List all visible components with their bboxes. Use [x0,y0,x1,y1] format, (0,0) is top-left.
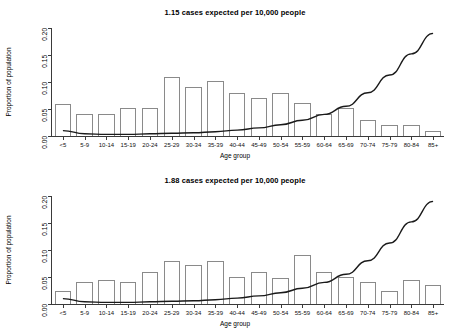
x-axis-tick [433,136,434,140]
x-axis-tick-label: 30-34 [186,142,201,148]
x-axis-tick [433,304,434,308]
x-axis-tick-label: 5-9 [80,310,89,316]
y-tick-label-wrap: 0.20 [44,28,45,29]
x-axis-tick-label: 5-9 [80,142,89,148]
x-axis-tick-label: 45-49 [251,142,266,148]
x-axis-tick-label: 50-54 [273,310,288,316]
x-axis-tick [324,304,325,308]
y-tick-label-wrap: 0.10 [44,82,45,83]
x-axis-tick [215,136,216,140]
x-axis-tick-label: <5 [59,310,66,316]
y-axis-tick-label: 0.05 [42,277,49,290]
risk-curve [52,28,444,136]
y-axis-tick-label: 0.10 [42,82,49,95]
x-axis-tick-label: 45-49 [251,310,266,316]
y-axis-tick-label: 0.15 [42,55,49,68]
x-axis-tick [106,304,107,308]
x-axis-tick-label: 65-69 [338,142,353,148]
chart-panel-1: 1.15 cases expected per 10,000 people Pr… [0,0,470,168]
x-axis-tick [85,304,86,308]
y-axis-tick-label: 0.20 [42,28,49,41]
x-axis-tick-label: 80-84 [404,142,419,148]
x-axis-tick-label: 10-14 [99,142,114,148]
y-axis-tick-label: 0.15 [42,223,49,236]
plot-area-2 [52,196,444,304]
y-axis-tick-label: 0.00 [42,136,49,149]
x-axis-tick [346,136,347,140]
x-axis-tick-label: 35-39 [208,310,223,316]
x-axis-tick [281,304,282,308]
x-axis-tick-label: 15-19 [121,142,136,148]
x-axis-tick [346,304,347,308]
x-axis-tick [281,136,282,140]
x-axis-tick [302,136,303,140]
x-axis-tick [85,136,86,140]
x-axis-tick [237,136,238,140]
x-axis-line [52,304,444,305]
x-axis-tick [215,304,216,308]
x-axis-tick-label: 70-74 [360,310,375,316]
chart-panel-2: 1.88 cases expected per 10,000 people Pr… [0,168,470,336]
x-axis-label: Age group [0,320,470,327]
chart-title: 1.15 cases expected per 10,000 people [0,8,470,17]
y-tick-label-wrap: 0.15 [44,55,45,56]
x-axis-tick [128,136,129,140]
x-axis-tick [411,136,412,140]
x-axis-tick-label: 10-14 [99,310,114,316]
x-axis-tick [302,304,303,308]
x-axis-tick-label: 20-24 [142,310,157,316]
y-axis-tick-label: 0.20 [42,196,49,209]
x-axis-tick-label: 30-34 [186,310,201,316]
x-axis-tick-label: 60-64 [317,142,332,148]
x-axis-tick [194,304,195,308]
y-axis-tick-label: 0.05 [42,109,49,122]
risk-curve-path [63,201,433,302]
x-axis-line [52,136,444,137]
y-axis-tick-label: 0.00 [42,304,49,317]
x-axis-tick [259,304,260,308]
x-axis-tick-label: 75-79 [382,142,397,148]
x-axis-tick-label: 60-64 [317,310,332,316]
x-axis-tick-label: 70-74 [360,142,375,148]
x-axis-tick-label: 50-54 [273,142,288,148]
x-axis-tick [411,304,412,308]
x-axis-tick [324,136,325,140]
x-axis-tick [128,304,129,308]
x-axis-tick [237,304,238,308]
x-axis-tick [368,136,369,140]
x-axis-tick [194,136,195,140]
x-axis-tick [172,304,173,308]
x-axis-tick [150,136,151,140]
y-axis-label: Proportion of population [2,28,14,136]
x-axis-tick [150,304,151,308]
x-axis-tick-label: 40-44 [229,142,244,148]
x-axis-tick-label: 85+ [428,142,438,148]
x-axis-label: Age group [0,152,470,159]
x-axis-tick [390,136,391,140]
chart-title: 1.88 cases expected per 10,000 people [0,176,470,185]
x-axis-tick-label: 25-29 [164,310,179,316]
x-axis-tick-label: 25-29 [164,142,179,148]
x-axis-tick [390,304,391,308]
x-axis-tick [106,136,107,140]
x-axis-tick-label: 15-19 [121,310,136,316]
x-axis-tick-label: 65-69 [338,310,353,316]
risk-curve-path [63,33,433,134]
x-axis-tick-label: 40-44 [229,310,244,316]
x-axis-tick-label: 85+ [428,310,438,316]
y-tick-label-wrap: 0.20 [44,196,45,197]
y-axis-label: Proportion of population [2,196,14,304]
x-axis-tick-label: 55-59 [295,310,310,316]
x-axis-tick-label: <5 [59,142,66,148]
y-tick-label-wrap: 0.15 [44,223,45,224]
x-axis-tick [63,304,64,308]
x-axis-tick-label: 35-39 [208,142,223,148]
figure-container: 1.15 cases expected per 10,000 people Pr… [0,0,470,336]
plot-area-1 [52,28,444,136]
x-axis-tick-label: 55-59 [295,142,310,148]
x-axis-tick [63,136,64,140]
y-tick-label-wrap: 0.05 [44,277,45,278]
x-axis-tick [368,304,369,308]
y-tick-label-wrap: 0.10 [44,250,45,251]
y-tick-label-wrap: 0.00 [44,136,45,137]
